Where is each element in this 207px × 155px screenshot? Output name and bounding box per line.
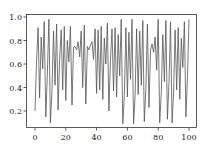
- y-tick-label: 0.2: [9, 107, 22, 116]
- line-chart-svg: 0.20.40.60.81.0 020406080100: [0, 0, 207, 155]
- x-tick-label: 100: [181, 133, 196, 142]
- data-line: [35, 19, 189, 124]
- y-tick-label: 0.6: [9, 60, 22, 69]
- x-tick-label: 80: [153, 133, 163, 142]
- y-tick-label: 0.4: [9, 84, 22, 93]
- x-axis: 020406080100: [32, 128, 196, 143]
- chart: 0.20.40.60.81.0 020406080100: [0, 0, 207, 155]
- x-tick-label: 0: [32, 133, 37, 142]
- x-tick-label: 60: [122, 133, 132, 142]
- x-tick-label: 40: [92, 133, 102, 142]
- y-tick-label: 1.0: [9, 13, 22, 22]
- x-tick-label: 20: [61, 133, 71, 142]
- y-axis: 0.20.40.60.81.0: [9, 13, 26, 116]
- y-tick-label: 0.8: [9, 37, 22, 46]
